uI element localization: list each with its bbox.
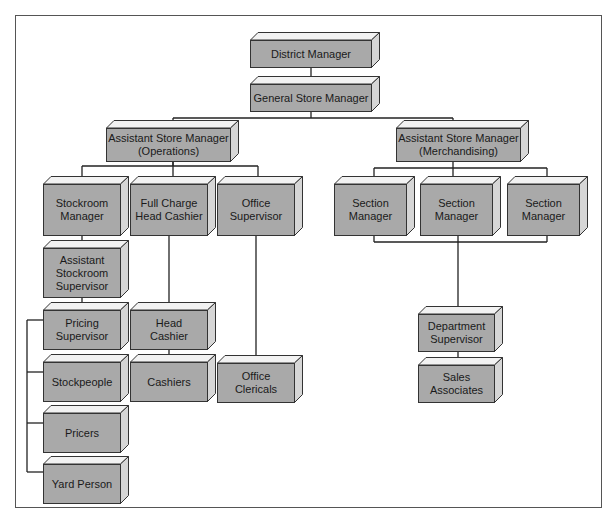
org-node-stockpeople: Stockpeople <box>43 354 131 404</box>
org-node-full-charge-head-cashier: Full Charge Head Cashier <box>130 176 218 238</box>
org-node-label: Office Clericals <box>217 363 295 403</box>
org-node-label: Sales Associates <box>418 365 495 403</box>
org-node-label: Department Supervisor <box>418 314 495 352</box>
org-node-pricers: Pricers <box>43 405 131 455</box>
org-node-general-store-manager: General Store Manager <box>250 76 382 114</box>
org-node-label: Stockroom Manager <box>43 184 121 236</box>
org-node-section-manager-3: Section Manager <box>507 176 590 238</box>
org-node-stockroom-manager: Stockroom Manager <box>43 176 131 238</box>
org-node-label: District Manager <box>250 40 372 68</box>
org-node-label: Cashiers <box>130 362 208 402</box>
org-node-cashiers: Cashiers <box>130 354 218 404</box>
org-node-label: Section Manager <box>420 184 493 236</box>
org-node-sales-associates: Sales Associates <box>418 357 505 405</box>
org-node-asm-merchandising: Assistant Store Manager (Merchandising) <box>396 120 531 164</box>
org-node-label: Pricing Supervisor <box>43 310 121 350</box>
org-node-section-manager-2: Section Manager <box>420 176 503 238</box>
org-node-label: Stockpeople <box>43 362 121 402</box>
org-node-label: Head Cashier <box>130 310 208 350</box>
org-node-label: Section Manager <box>507 184 580 236</box>
org-node-office-supervisor: Office Supervisor <box>217 176 305 238</box>
org-node-yard-person: Yard Person <box>43 456 131 506</box>
org-node-label: Assistant Store Manager (Merchandising) <box>396 128 521 162</box>
org-node-asm-operations: Assistant Store Manager (Operations) <box>106 120 241 164</box>
org-node-department-supervisor: Department Supervisor <box>418 306 505 354</box>
org-node-label: Section Manager <box>334 184 407 236</box>
org-node-label: Office Supervisor <box>217 184 295 236</box>
org-node-district-manager: District Manager <box>250 32 382 70</box>
org-node-label: General Store Manager <box>250 84 372 112</box>
org-node-office-clericals: Office Clericals <box>217 355 305 405</box>
org-node-assistant-stockroom-supervisor: Assistant Stockroom Supervisor <box>43 240 131 300</box>
org-node-head-cashier: Head Cashier <box>130 302 218 352</box>
org-node-label: Full Charge Head Cashier <box>130 184 208 236</box>
org-node-label: Pricers <box>43 413 121 453</box>
org-node-pricing-supervisor: Pricing Supervisor <box>43 302 131 352</box>
org-node-label: Yard Person <box>43 464 121 504</box>
org-node-section-manager-1: Section Manager <box>334 176 417 238</box>
org-node-label: Assistant Store Manager (Operations) <box>106 128 231 162</box>
org-node-label: Assistant Stockroom Supervisor <box>43 248 121 298</box>
